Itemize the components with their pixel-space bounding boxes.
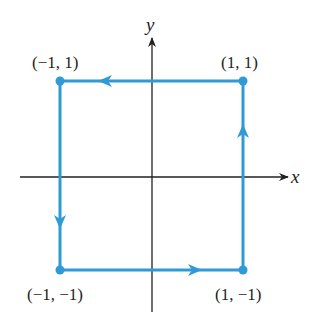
vertex-bottom-right	[239, 266, 248, 275]
label-top-right: (1, 1)	[221, 53, 258, 72]
label-bottom-right: (1, −1)	[215, 285, 261, 304]
vertex-top-left	[56, 77, 65, 86]
y-axis-label: y	[144, 14, 155, 35]
label-bottom-left: (−1, −1)	[27, 285, 83, 304]
square-path-diagram: x y (−1, 1) (1, 1) (−1, −1) (1, −1)	[0, 0, 312, 315]
x-axis-label: x	[290, 166, 300, 187]
label-top-left: (−1, 1)	[32, 53, 78, 72]
vertex-bottom-left	[56, 266, 65, 275]
vertex-top-right	[239, 77, 248, 86]
